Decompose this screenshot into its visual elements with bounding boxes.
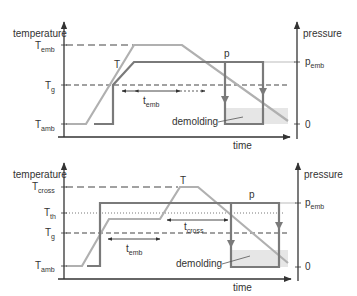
tick-label-p-emb: pemb bbox=[305, 197, 324, 210]
down-arrow-icon bbox=[221, 96, 229, 104]
tick-label-t-th: Tth bbox=[44, 207, 56, 220]
down-arrow-icon bbox=[259, 88, 267, 96]
tick-label-zero: 0 bbox=[305, 119, 311, 130]
tick-label-t-amb: Tamb bbox=[35, 260, 55, 273]
tick-label-t-g: Tg bbox=[45, 80, 55, 94]
tick-label-zero: 0 bbox=[305, 261, 311, 272]
pressure-axis-label: pressure bbox=[304, 169, 343, 180]
tick-label-t-amb: Tamb bbox=[35, 119, 55, 132]
demolding-label: demolding bbox=[176, 258, 222, 269]
demolding-region bbox=[225, 108, 288, 124]
t-cross-interval-label: tcross bbox=[184, 221, 204, 234]
t-emb-interval-label: temb bbox=[126, 243, 143, 256]
pressure-curve-label: p bbox=[224, 48, 230, 59]
process-diagram: temperature pressure time Temb Tg Tamb p… bbox=[0, 0, 357, 296]
pressure-axis-label: pressure bbox=[303, 28, 342, 39]
crosslinking-chart: temperature pressure time Tcross Tth Tg … bbox=[13, 163, 343, 293]
time-axis-label: time bbox=[233, 140, 252, 151]
tick-label-t-emb: Temb bbox=[35, 40, 55, 53]
tick-label-t-g: Tg bbox=[45, 227, 55, 241]
temperature-axis-label: temperature bbox=[13, 28, 67, 39]
t-emb-interval-label: temb bbox=[143, 95, 160, 108]
down-arrow-icon bbox=[275, 222, 283, 230]
embossing-chart: temperature pressure time Temb Tg Tamb p… bbox=[13, 22, 342, 151]
down-arrow-icon bbox=[227, 240, 235, 248]
tick-label-p-emb: pemb bbox=[305, 56, 324, 69]
tick-label-t-cross: Tcross bbox=[32, 181, 55, 194]
time-axis-label: time bbox=[233, 282, 252, 293]
temperature-curve-label: T bbox=[114, 59, 120, 70]
demolding-label: demolding bbox=[172, 116, 218, 127]
temperature-axis-label: temperature bbox=[13, 169, 67, 180]
temperature-curve-label: T bbox=[180, 175, 186, 186]
pressure-curve-label: p bbox=[249, 189, 255, 200]
